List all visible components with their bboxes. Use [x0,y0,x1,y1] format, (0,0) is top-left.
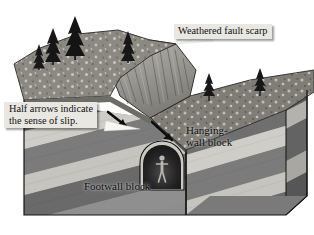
label-footwall-block: Footwall block [84,180,150,192]
label-hanging-wall-block: Hanging- wall block [186,124,232,148]
diagram-canvas: Weathered fault scarp Half arrows indica… [0,0,314,235]
callout-weathered-fault-scarp: Weathered fault scarp [174,24,272,39]
callout-half-arrows: Half arrows indicate the sense of slip. [4,102,97,128]
